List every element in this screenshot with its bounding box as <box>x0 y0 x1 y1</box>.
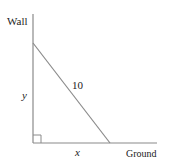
base-variable-label: x <box>74 146 80 158</box>
ladder-length-label: 10 <box>72 79 84 91</box>
right-angle-marker <box>33 135 41 143</box>
height-variable-label: y <box>21 89 27 101</box>
ladder-line <box>33 43 110 143</box>
ground-label: Ground <box>126 148 157 159</box>
wall-label: Wall <box>7 15 28 27</box>
ladder-diagram: Wall 10 y x Ground <box>0 0 169 168</box>
